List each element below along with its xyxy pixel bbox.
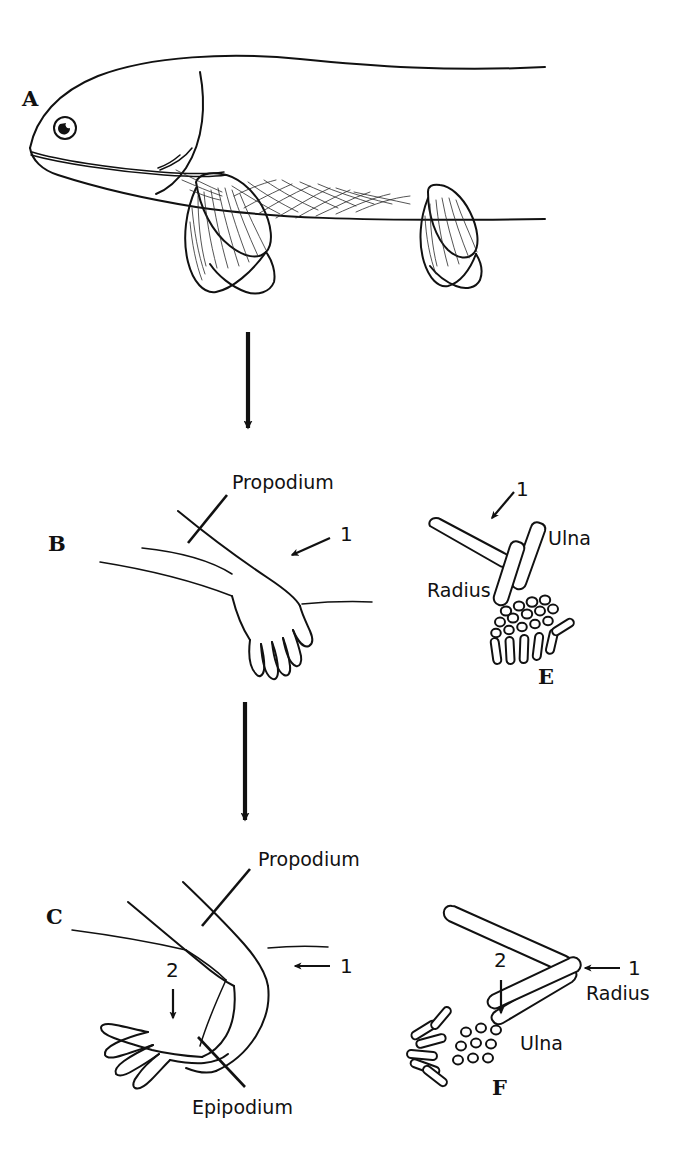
- panel-letter-f: F: [492, 1075, 507, 1100]
- fish-pectoral-web-lower: [210, 252, 275, 294]
- label-epipodium-c: Epipodium: [192, 1096, 293, 1118]
- marker-1-f-label: 1: [628, 956, 641, 980]
- limb-b-posterior-line: [302, 602, 372, 604]
- limb-c-digit-4: [133, 1054, 170, 1089]
- fish-flank-scales: [176, 170, 410, 218]
- fish-pelvic-lobe: [428, 185, 477, 258]
- bone-humerus-f: [444, 906, 572, 973]
- limb-c-body-line: [72, 930, 186, 950]
- figure-root: A Propodium: [0, 0, 683, 1174]
- panel-letter-b: B: [48, 531, 66, 556]
- label-propodium-c: Propodium: [258, 848, 360, 870]
- limb-c-posterior-extension: [268, 946, 328, 948]
- panel-e-skeleton: 1 Ulna Radius E: [427, 477, 591, 689]
- fish-pupil: [58, 123, 70, 134]
- label-ulna-f: Ulna: [520, 1032, 563, 1054]
- fish-pectoral-web: [185, 188, 266, 292]
- fish-lower-jaw: [32, 152, 224, 174]
- limb-c-digit-2: [105, 1032, 153, 1058]
- marker-1-c-label: 1: [340, 954, 353, 978]
- marker-1-b-label: 1: [340, 522, 353, 546]
- label-ulna-e: Ulna: [548, 527, 591, 549]
- limb-c-digit-1: [101, 1024, 202, 1057]
- panel-letter-a: A: [21, 86, 39, 111]
- panel-c-limb-outline: Propodium Epipodium 1 2 C: [46, 848, 360, 1118]
- marker-1-e-arrow: [492, 492, 514, 518]
- carpals-f: [453, 1024, 501, 1065]
- label-radius-f: Radius: [586, 982, 650, 1004]
- limb-b-propodium-leader: [188, 495, 227, 543]
- panel-f-skeleton: 1 Radius Ulna 2 F: [407, 906, 650, 1100]
- bone-humerus-e: [429, 518, 509, 567]
- figure-canvas: A Propodium: [0, 0, 683, 1174]
- marker-1-b-arrow: [292, 538, 330, 555]
- limb-c-inner-forearm: [200, 980, 226, 1046]
- label-propodium-b: Propodium: [232, 471, 334, 493]
- limb-c-wrist-line: [186, 1068, 216, 1072]
- label-radius-e: Radius: [427, 579, 491, 601]
- limb-b-lower-body-line: [100, 562, 232, 596]
- limb-b-ventral-margin: [232, 596, 250, 640]
- panel-b-limb-outline: Propodium 1 B: [48, 471, 372, 679]
- digits-f: [407, 1005, 453, 1087]
- marker-2-c-label: 2: [166, 958, 179, 982]
- limb-c-forearm-posterior: [216, 986, 269, 1071]
- limb-c-propodium-leader: [202, 869, 250, 926]
- panel-letter-e: E: [538, 664, 554, 689]
- marker-2-f-label: 2: [494, 948, 507, 972]
- panel-letter-c: C: [46, 904, 63, 929]
- panel-a-fish: A: [21, 56, 545, 294]
- marker-1-e-label: 1: [516, 477, 529, 501]
- limb-b-digit-4: [283, 630, 301, 666]
- fish-dorsal-outline: [30, 56, 545, 148]
- limb-b-upper-body-line: [142, 548, 232, 574]
- limb-c-inner-contour: [186, 950, 226, 980]
